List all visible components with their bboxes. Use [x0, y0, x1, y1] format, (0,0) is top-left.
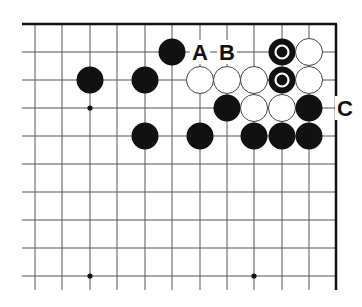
star-point	[87, 273, 92, 278]
point-label-a: A	[192, 40, 208, 65]
white-stone	[269, 95, 296, 122]
star-point	[87, 105, 92, 110]
black-stone	[187, 123, 214, 150]
white-stone	[296, 67, 323, 94]
go-board: ABC	[0, 0, 362, 307]
black-stone	[269, 67, 296, 94]
black-stone	[269, 39, 296, 66]
white-stone	[187, 67, 214, 94]
black-stone	[159, 39, 186, 66]
grid-lines	[22, 24, 336, 290]
black-stone	[132, 67, 159, 94]
white-stone	[214, 67, 241, 94]
white-stone	[296, 39, 323, 66]
black-stone	[214, 95, 241, 122]
black-stone	[296, 123, 323, 150]
black-stone	[77, 67, 104, 94]
point-label-c: C	[337, 96, 353, 121]
black-stone	[296, 95, 323, 122]
black-stone	[269, 123, 296, 150]
white-stone	[241, 67, 268, 94]
black-stone	[132, 123, 159, 150]
star-point	[251, 273, 256, 278]
black-stone	[241, 123, 268, 150]
point-label-b: B	[219, 40, 235, 65]
board-edges	[22, 24, 337, 290]
white-stone	[241, 95, 268, 122]
